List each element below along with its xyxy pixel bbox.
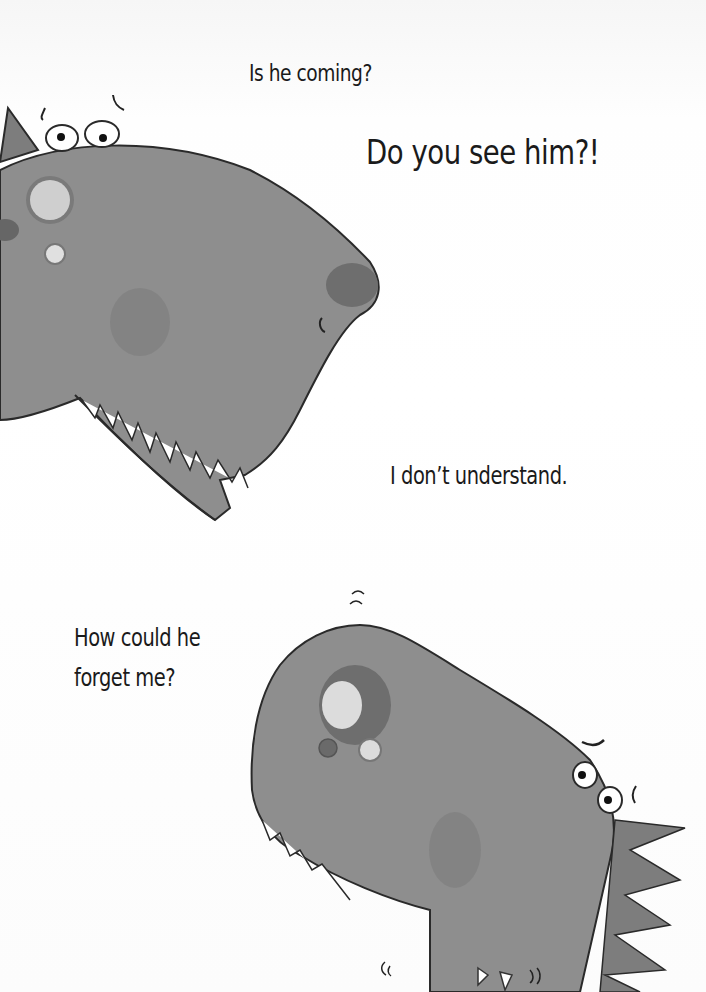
eye-icon	[85, 121, 119, 147]
caption-is-he-coming: Is he coming?	[249, 60, 372, 86]
dinosaur-top-left	[0, 95, 379, 520]
dinosaur-head	[252, 625, 614, 992]
caption-do-you-see-him: Do you see him?!	[366, 132, 599, 172]
caption-how-could-he-forget-me: How could he forget me?	[74, 618, 200, 698]
illustration	[0, 0, 706, 992]
back-spikes	[600, 820, 685, 992]
caption-i-dont-understand: I don’t understand.	[390, 462, 567, 490]
book-page: Is he coming? Do you see him?! I don’t u…	[0, 0, 706, 992]
spike-icon	[0, 108, 38, 162]
